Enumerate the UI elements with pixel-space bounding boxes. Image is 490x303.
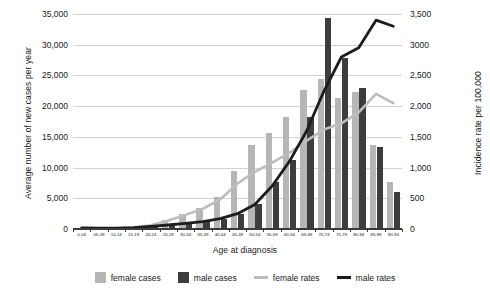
x-axis-title: Age at diagnosis	[0, 245, 490, 255]
x-axis-tick-label: 20-24	[142, 232, 159, 237]
y-axis-right-tick-label: 2,000	[410, 102, 456, 111]
x-axis-tick-mark	[90, 229, 91, 232]
x-axis-tick-mark	[263, 229, 264, 232]
y-axis-left-tick-label: 10,000	[22, 164, 68, 173]
chart-legend: female casesmale casesfemale ratesmale r…	[0, 272, 490, 283]
x-axis-tick-mark	[160, 229, 161, 232]
x-axis-tick-mark	[142, 229, 143, 232]
x-axis-tick-mark	[108, 229, 109, 232]
x-axis-tick-mark	[73, 229, 74, 232]
legend-label: female rates	[273, 273, 320, 283]
legend-label: male rates	[356, 273, 396, 283]
line-series-layer	[73, 14, 402, 229]
x-axis-baseline	[73, 228, 402, 230]
x-axis-tick-label: 75-79	[333, 232, 350, 237]
x-axis-tick-mark	[246, 229, 247, 232]
y-axis-right-tick-label: 1,000	[410, 164, 456, 173]
legend-item[interactable]: female rates	[254, 273, 320, 283]
y-axis-right-tick-label: 500	[410, 194, 456, 203]
y-axis-right-tick-label: 1,500	[410, 133, 456, 142]
legend-swatch-box-icon	[178, 272, 189, 283]
y-axis-left-tick-label: 5,000	[22, 194, 68, 203]
x-axis-tick-label: 40-44	[212, 232, 229, 237]
chart-container: Average number of new cases per year Inc…	[0, 0, 490, 303]
x-axis-tick-mark	[125, 229, 126, 232]
x-axis-tick-mark	[402, 229, 403, 232]
y-axis-left-tick-label: 20,000	[22, 102, 68, 111]
y-axis-right-title: Incidence rate per 100,000	[473, 23, 483, 223]
x-axis-tick-label: 80-84	[350, 232, 367, 237]
x-axis-tick-mark	[315, 229, 316, 232]
x-axis-tick-mark	[350, 229, 351, 232]
y-axis-left-tick-label: 15,000	[22, 133, 68, 142]
x-axis-tick-mark	[177, 229, 178, 232]
x-axis-tick-label: 70-74	[315, 232, 332, 237]
x-axis-tick-mark	[229, 229, 230, 232]
x-axis-tick-mark	[333, 229, 334, 232]
x-axis-tick-label: 10-14	[108, 232, 125, 237]
x-axis-tick-mark	[281, 229, 282, 232]
plot-area	[73, 14, 402, 229]
y-axis-left-tick-label: 0	[22, 225, 68, 234]
x-axis-tick-label: 30-34	[177, 232, 194, 237]
x-axis-tick-label: 85-89	[367, 232, 384, 237]
x-axis-tick-label: 05-09	[90, 232, 107, 237]
y-axis-left-tick-label: 30,000	[22, 41, 68, 50]
legend-swatch-line-icon	[337, 276, 351, 279]
x-axis-ticks: 0-0405-0910-1415-1920-2425-2930-3435-394…	[73, 232, 402, 244]
legend-item[interactable]: male rates	[337, 273, 396, 283]
x-axis-tick-label: 60-64	[281, 232, 298, 237]
female-rates-line	[82, 94, 394, 229]
x-axis-tick-label: 50-54	[246, 232, 263, 237]
x-axis-tick-mark	[212, 229, 213, 232]
y-axis-right-tick-label: 0	[410, 225, 456, 234]
x-axis-tick-mark	[298, 229, 299, 232]
legend-item[interactable]: male cases	[178, 272, 237, 283]
male-rates-line	[82, 20, 394, 228]
legend-label: female cases	[111, 273, 161, 283]
x-axis-tick-mark	[194, 229, 195, 232]
x-axis-tick-label: 90-94	[385, 232, 402, 237]
x-axis-tick-mark	[385, 229, 386, 232]
x-axis-tick-label: 65-69	[298, 232, 315, 237]
legend-swatch-box-icon	[95, 272, 106, 283]
y-axis-left-tick-label: 25,000	[22, 71, 68, 80]
x-axis-tick-mark	[367, 229, 368, 232]
y-axis-right-tick-label: 2,500	[410, 71, 456, 80]
y-axis-right-tick-label: 3000	[410, 41, 456, 50]
legend-item[interactable]: female cases	[95, 272, 161, 283]
y-axis-left-title: Average number of new cases per year	[23, 23, 33, 223]
x-axis-tick-label: 35-39	[194, 232, 211, 237]
y-axis-left-tick-label: 35,000	[22, 10, 68, 19]
y-axis-right-tick-label: 3,500	[410, 10, 456, 19]
x-axis-tick-label: 55-59	[263, 232, 280, 237]
x-axis-tick-label: 25-29	[160, 232, 177, 237]
x-axis-tick-label: 45-49	[229, 232, 246, 237]
x-axis-tick-label: 0-04	[73, 232, 90, 237]
legend-swatch-line-icon	[254, 276, 268, 279]
x-axis-tick-label: 15-19	[125, 232, 142, 237]
legend-label: male cases	[194, 273, 237, 283]
